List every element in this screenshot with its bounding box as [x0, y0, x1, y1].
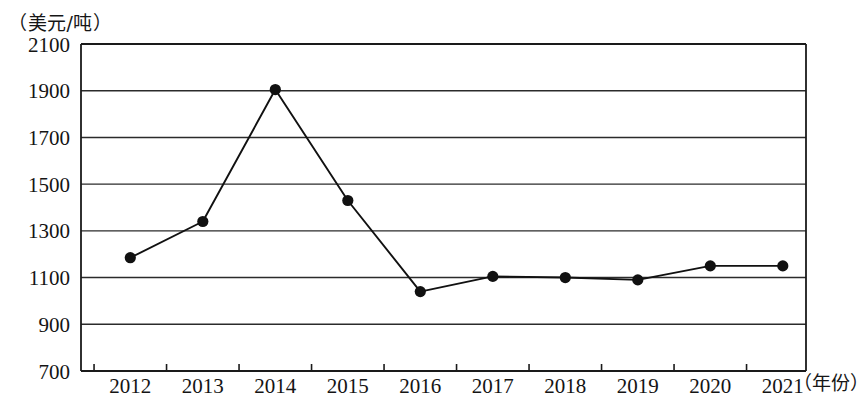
data-point-2017 — [487, 271, 498, 282]
x-tick-label-2015: 2015 — [327, 374, 369, 398]
x-tick-label-2020: 2020 — [689, 374, 731, 398]
gridlines-group — [81, 44, 806, 371]
y-tick-label-1900: 1900 — [28, 79, 70, 103]
y-tick-label-1500: 1500 — [28, 173, 70, 197]
data-point-2019 — [632, 274, 643, 285]
y-tick-label-700: 700 — [39, 360, 71, 384]
plot-frame — [81, 44, 806, 371]
y-tick-label-1100: 1100 — [29, 266, 70, 290]
x-tick-label-2014: 2014 — [254, 374, 297, 398]
x-axis-tick-labels: 2012201320142015201620172018201920202021 — [109, 374, 804, 398]
x-tick-label-2012: 2012 — [109, 374, 151, 398]
x-axis-unit-label: （年份） — [793, 368, 859, 395]
data-point-2013 — [197, 216, 208, 227]
data-point-2015 — [342, 195, 353, 206]
x-tick-label-2018: 2018 — [544, 374, 586, 398]
x-tick-label-2017: 2017 — [472, 374, 514, 398]
y-tick-label-1700: 1700 — [28, 126, 70, 150]
chart-canvas: 700900110013001500170019002100 201220132… — [0, 0, 859, 399]
x-tick-label-2016: 2016 — [399, 374, 441, 398]
data-series-line — [130, 90, 783, 292]
line-chart: （美元/吨） 700900110013001500170019002100 20… — [0, 0, 859, 399]
y-tick-label-1300: 1300 — [28, 219, 70, 243]
data-series-markers — [125, 84, 789, 297]
series-polyline — [130, 90, 783, 292]
data-point-2014 — [270, 84, 281, 95]
data-point-2020 — [705, 260, 716, 271]
y-axis-tick-labels: 700900110013001500170019002100 — [28, 33, 70, 384]
x-tick-label-2013: 2013 — [182, 374, 224, 398]
data-point-2016 — [415, 286, 426, 297]
data-point-2021 — [777, 260, 788, 271]
data-point-2018 — [560, 272, 571, 283]
y-tick-label-900: 900 — [39, 313, 71, 337]
x-tick-label-2019: 2019 — [617, 374, 659, 398]
x-axis-tick-marks — [94, 364, 747, 371]
y-tick-label-2100: 2100 — [28, 33, 70, 57]
data-point-2012 — [125, 252, 136, 263]
